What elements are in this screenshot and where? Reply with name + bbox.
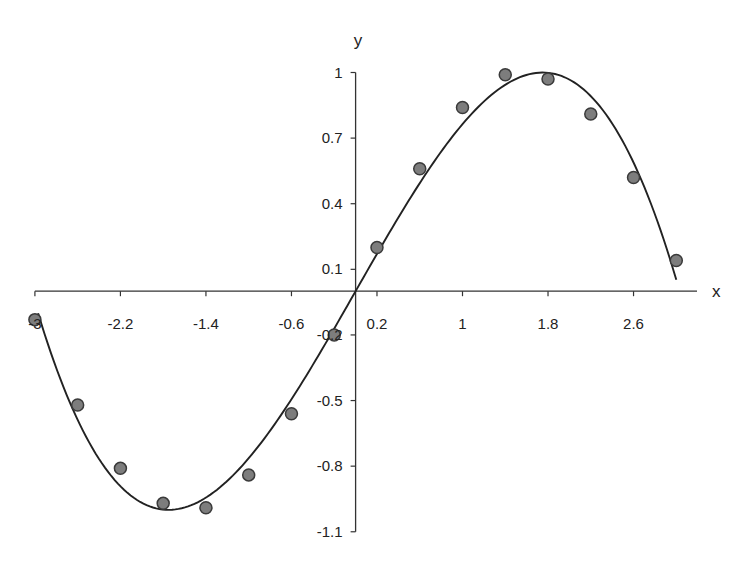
y-tick-label: -0.8 xyxy=(317,457,343,474)
x-tick-label: 1.8 xyxy=(538,315,559,332)
x-tick-label: -2.2 xyxy=(107,315,133,332)
data-point xyxy=(585,108,597,120)
y-tick-label: 0.7 xyxy=(322,129,343,146)
x-tick-label: 0.2 xyxy=(367,315,388,332)
chart-canvas: -3-2.2-1.4-0.60.211.82.610.70.40.1-0.2-0… xyxy=(0,0,746,567)
x-tick-label: -1.4 xyxy=(193,315,219,332)
y-tick-label: 0.1 xyxy=(322,260,343,277)
y-tick-label: 1 xyxy=(334,64,342,81)
y-axis-title: y xyxy=(354,31,363,50)
data-point xyxy=(285,408,297,420)
x-axis-title: x xyxy=(712,282,721,301)
y-tick-label: -1.1 xyxy=(317,523,343,540)
data-point xyxy=(114,462,126,474)
data-point xyxy=(499,69,511,81)
data-point xyxy=(670,255,682,267)
data-point xyxy=(414,163,426,175)
x-tick-label: 1 xyxy=(458,315,466,332)
x-tick-label: -3 xyxy=(28,315,41,332)
data-point xyxy=(371,241,383,253)
data-point xyxy=(542,73,554,85)
y-tick-label: -0.5 xyxy=(317,392,343,409)
data-point xyxy=(157,497,169,509)
data-point xyxy=(72,399,84,411)
data-point xyxy=(628,171,640,183)
x-tick-label: -0.6 xyxy=(279,315,305,332)
x-tick-label: 2.6 xyxy=(623,315,644,332)
y-tick-label: 0.4 xyxy=(322,195,343,212)
data-point xyxy=(200,502,212,514)
y-tick-label: -0.2 xyxy=(317,326,343,343)
data-point xyxy=(457,101,469,113)
axes xyxy=(35,73,697,532)
data-point xyxy=(243,469,255,481)
